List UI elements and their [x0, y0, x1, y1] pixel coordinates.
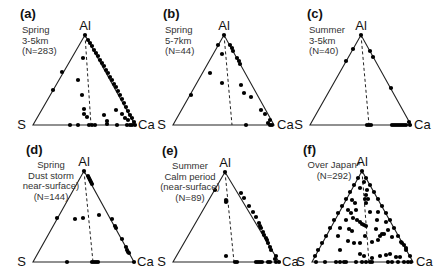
panel-letter: (e) [162, 143, 178, 158]
panel-description: Summer [309, 24, 345, 35]
vertex-label-ca: Ca [277, 117, 294, 132]
data-point [82, 107, 86, 111]
data-point [354, 260, 358, 264]
data-point [114, 108, 118, 112]
data-point [235, 260, 239, 264]
vertex-label-s: S [17, 254, 26, 269]
data-point [239, 191, 243, 195]
data-point [390, 235, 394, 239]
data-point [378, 254, 382, 258]
data-point [268, 260, 272, 264]
data-point [130, 123, 134, 127]
data-point [132, 260, 136, 264]
data-point [247, 204, 251, 208]
data-point [344, 59, 348, 63]
panel-description: (N=40) [309, 45, 338, 56]
data-point [220, 52, 224, 56]
dashed-reference-line [85, 35, 91, 125]
data-point [346, 208, 350, 212]
data-point [408, 123, 412, 127]
data-point [394, 255, 398, 259]
data-point [83, 33, 87, 37]
data-point [81, 216, 85, 220]
data-point [328, 226, 332, 230]
data-point [93, 123, 97, 127]
data-point [90, 182, 94, 186]
data-point [349, 211, 353, 215]
data-point [90, 44, 94, 48]
data-point [268, 123, 272, 127]
panel-description: Summer [172, 160, 208, 171]
data-point [122, 101, 126, 105]
data-point [259, 108, 263, 112]
panel-description: 3-5km [309, 35, 335, 46]
vertex-label-s: S [157, 254, 166, 269]
data-point [384, 220, 388, 224]
data-point [389, 86, 393, 90]
data-point [409, 260, 413, 264]
vertex-label-ca: Ca [138, 117, 155, 132]
data-point [374, 227, 378, 231]
data-point [350, 198, 354, 202]
data-point [358, 186, 362, 190]
data-point [73, 217, 77, 221]
panel-letter: (b) [163, 6, 180, 21]
data-point [364, 260, 368, 264]
panel-description: (N=89) [175, 192, 204, 203]
data-point [269, 248, 273, 252]
data-point [126, 109, 130, 113]
data-point [344, 260, 348, 264]
data-point [363, 234, 367, 238]
data-point [82, 169, 86, 173]
data-point [338, 248, 342, 252]
panel-description: 5-7km [165, 35, 191, 46]
vertex-label-al: Al [356, 154, 368, 169]
data-point [102, 113, 106, 117]
data-point [386, 228, 390, 232]
data-point [346, 239, 350, 243]
data-point [85, 115, 89, 119]
data-point [81, 56, 85, 60]
data-point [105, 122, 109, 126]
data-point [340, 204, 344, 208]
data-point [388, 218, 392, 222]
data-point [392, 226, 396, 230]
data-point [97, 213, 101, 217]
data-point [368, 210, 372, 214]
data-point [358, 241, 362, 245]
data-point [76, 123, 80, 127]
data-point [369, 123, 373, 127]
vertex-label-ca: Ca [416, 254, 433, 269]
panel-description: (N=144) [34, 191, 69, 202]
panel-description: (near-surface) [160, 181, 220, 192]
data-point [356, 176, 360, 180]
data-point [222, 33, 226, 37]
data-point [68, 123, 72, 127]
data-point [370, 260, 374, 264]
data-point [189, 93, 193, 97]
data-point [242, 91, 246, 95]
data-point [364, 224, 368, 228]
data-point [263, 112, 267, 116]
data-point [365, 188, 369, 192]
data-point [60, 70, 64, 74]
data-point [350, 229, 354, 233]
data-point [238, 62, 242, 66]
vertex-label-al: Al [218, 18, 230, 33]
data-point [96, 54, 100, 58]
panel-description: (N=283) [22, 45, 57, 56]
data-point [344, 197, 348, 201]
data-point [96, 260, 100, 264]
data-point [231, 49, 235, 53]
data-point [216, 43, 220, 47]
data-point [376, 210, 380, 214]
data-point [348, 190, 352, 194]
panel-description: Spring [165, 24, 192, 35]
data-point [336, 234, 340, 238]
vertex-label-s: S [157, 117, 166, 132]
panel-description: near-surface) [23, 180, 80, 191]
data-point [384, 253, 388, 257]
data-point [80, 93, 84, 97]
data-point [127, 251, 131, 255]
data-point [332, 218, 336, 222]
